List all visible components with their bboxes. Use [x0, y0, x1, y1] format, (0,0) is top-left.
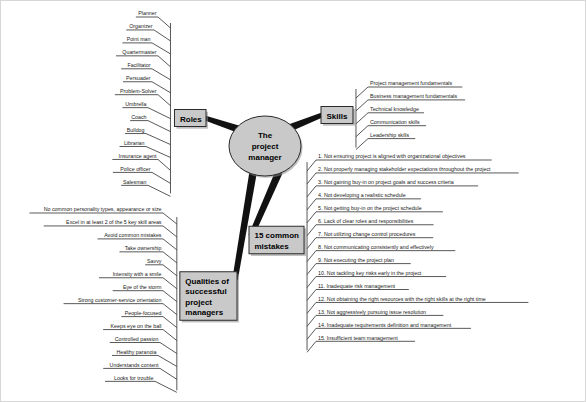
leaf-label: 13. Not aggressively pursuing issue reso… [318, 309, 426, 315]
leaf-label: Intensity with a smile [113, 271, 162, 277]
leaf-hook [158, 159, 170, 170]
leaf-hook [152, 172, 170, 183]
mindmap-svg: PlannerOrganizerPoint manQuartermasterFa… [0, 0, 586, 402]
leaf-hook [356, 139, 368, 150]
leaf-hook [356, 87, 368, 98]
node-roles-label: Roles [180, 115, 202, 124]
node-mistakes-label: mistakes [255, 242, 290, 251]
leaf-hook [163, 304, 177, 315]
leaf-hook [307, 251, 316, 262]
leaf-hook [307, 160, 316, 171]
node-layer: TheprojectmanagerRolesSkills15 commonmis… [174, 107, 354, 323]
leaf-hook [160, 368, 177, 379]
leaf-hook [163, 317, 177, 328]
leaf-label: 2. Not properly managing stakeholder exp… [318, 166, 491, 172]
leaf-label: 6. Lack of clear roles and responsibilit… [318, 218, 414, 224]
leaf-label: Planner [138, 10, 156, 16]
leaf-label: Eye of the storm [123, 284, 162, 290]
leaf-hook [146, 134, 170, 145]
leaf-hook [158, 95, 170, 106]
node-mistakes-label: 15 common [255, 231, 300, 240]
leaf-hook [356, 113, 368, 124]
node-skills-label: Skills [327, 112, 348, 121]
node-qualities-label: project [185, 298, 212, 307]
leaf-label: 3. Not gaining buy-in on project goals a… [318, 179, 454, 185]
leaf-label: Problem-Solver [120, 88, 157, 94]
leaf-hook [307, 212, 316, 223]
node-qualities-label: successful [185, 287, 226, 296]
leaf-hook [307, 199, 316, 210]
leaf-hook [163, 239, 177, 250]
leaf-label: Coach [131, 114, 146, 120]
leaf-label: Salesman [123, 179, 147, 185]
leaf-hook [307, 264, 316, 275]
leaf-hook [148, 121, 170, 132]
node-qualities-label: managers [185, 308, 223, 317]
leaf-label: 15. Insufficient team management [318, 335, 398, 341]
leaf-hook [356, 126, 368, 137]
leaf-hook [163, 291, 177, 302]
leaf-label: Umbrella [125, 101, 146, 107]
leaf-label: Project management fundamentals [370, 80, 452, 86]
leaf-hook [160, 343, 177, 354]
leaf-label: 9. Not executing the project plan [318, 257, 394, 263]
leaf-label: No common personality types, appearance … [44, 206, 162, 212]
leaf-label: 8. Not communicating consistently and ef… [318, 244, 434, 250]
leaf-hook [163, 330, 177, 341]
leaf-label: 12. Not obtaining the right resources wi… [318, 296, 486, 302]
leaf-hook [148, 108, 170, 119]
leaf-label: 4. Not developing a realistic schedule [318, 192, 406, 198]
leaf-label: Communication skills [370, 119, 420, 125]
leaf-hook [307, 173, 316, 184]
leaf-label: 10. Not tackling key risks early in the … [318, 270, 422, 276]
leaf-label: Organizer [129, 23, 152, 29]
leaf-label: Librarian [124, 140, 145, 146]
leaf-hook [158, 355, 177, 366]
leaf-hook [307, 328, 316, 339]
leaf-label: Healthy paranoia [116, 349, 156, 355]
leaf-hook [163, 278, 177, 289]
leaf-hook [163, 213, 177, 224]
image-frame [1, 1, 586, 402]
leaf-label: Business management fundamentals [370, 93, 458, 99]
leaf-label: Strong customer-service orientation [78, 297, 162, 303]
leaf-label: Savvy [147, 258, 162, 264]
leaf-hook [163, 252, 177, 263]
node-qualities-label: Qualities of [185, 277, 229, 286]
leaf-label: Understands content [110, 362, 159, 368]
leaf-label: Police officer [120, 166, 150, 172]
leaf-label: Persuader [126, 75, 151, 81]
leaf-hook [154, 30, 170, 41]
leaf-label: Controlled passion [115, 336, 159, 342]
leaf-label: 7. Not utilizing change control procedur… [318, 231, 416, 237]
leaf-label: Take ownership [125, 245, 162, 251]
leaf-hook [307, 186, 316, 197]
leaf-label: 5. Not getting buy-in on the project sch… [318, 205, 422, 211]
leaf-label: Insurance agent [119, 153, 158, 159]
leaf-hook [307, 225, 316, 236]
leaf-label: Looks for trouble [114, 375, 154, 381]
leaf-hook [307, 238, 316, 249]
leaf-label: Leadership skills [370, 132, 410, 138]
center-node-label: The [258, 131, 273, 140]
leaf-label: Facilitator [128, 62, 151, 68]
leaf-hook [163, 265, 177, 276]
leaf-label: Avoid common mistakes [104, 232, 162, 238]
mindmap-canvas: PlannerOrganizerPoint manQuartermasterFa… [0, 0, 586, 402]
leaf-label: Technical knowledge [370, 106, 419, 112]
leaf-hook [356, 100, 368, 111]
leaf-label: People-focused [125, 310, 162, 316]
leaf-hook [158, 56, 170, 67]
leaf-hook [307, 341, 316, 352]
leaf-hook [158, 17, 170, 28]
center-node-label: manager [248, 153, 281, 162]
leaf-hook [307, 302, 316, 313]
leaf-hook [155, 381, 177, 392]
leaf-hook [307, 290, 316, 301]
leaf-hook [152, 69, 170, 80]
leaf-label: 11. Inadequate risk management [318, 283, 396, 289]
leaf-label: Excel in at least 2 of the 5 key skill a… [66, 219, 162, 225]
leaf-hook [163, 226, 177, 237]
leaf-hook [307, 277, 316, 288]
leaf-label: 14. Inadequate requirements definition a… [318, 322, 452, 328]
